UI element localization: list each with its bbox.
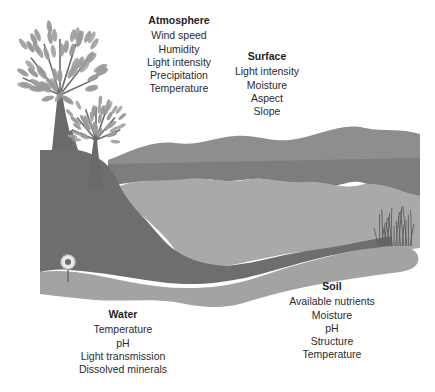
water-item: Light transmission [53,350,193,363]
soil-item: Structure [262,335,402,348]
soil-item: Temperature [262,348,402,361]
leaf [65,108,74,117]
leaf [42,47,51,61]
atmosphere-title: Atmosphere [118,14,240,27]
leaf [57,69,62,82]
leaf [98,95,103,105]
soil-factors: Soil Available nutrients Moisture pH Str… [262,280,402,362]
surface-item: Slope [214,105,320,118]
water-item: pH [53,337,193,350]
soil-title: Soil [262,280,402,293]
surface-item: Light intensity [214,65,320,78]
flower-center [65,259,71,265]
leaf [111,139,121,143]
atmosphere-item: Wind speed [118,29,240,42]
leaf [16,67,30,78]
water-item: Temperature [53,323,193,336]
water-factors: Water Temperature pH Light transmission … [53,308,193,376]
soil-item: pH [262,322,402,335]
leaf [116,122,126,130]
surface-title: Surface [214,50,320,63]
surface-item: Aspect [214,92,320,105]
large-tree-foliage [16,20,109,106]
water-item: Dissolved minerals [53,363,193,376]
small-tree-foliage [65,95,127,143]
soil-item: Moisture [262,309,402,322]
leaf [50,44,57,58]
surface-factors: Surface Light intensity Moisture Aspect … [214,50,320,118]
leaf [75,100,83,110]
surface-item: Moisture [214,79,320,92]
soil-item: Available nutrients [262,295,402,308]
water-title: Water [53,308,193,321]
leaf [117,112,127,121]
leaf [41,94,55,102]
